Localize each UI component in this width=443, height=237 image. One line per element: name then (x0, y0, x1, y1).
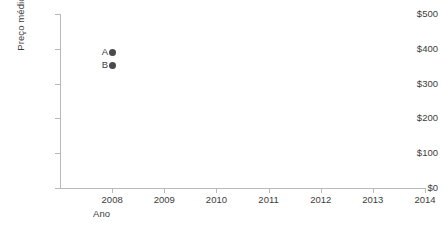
x-tick-mark (321, 188, 322, 193)
x-tick-label: 2010 (194, 194, 238, 205)
y-tick-mark (55, 49, 60, 50)
x-tick-label: 2009 (142, 194, 186, 205)
x-axis-line (60, 188, 425, 189)
data-point-marker (109, 62, 116, 69)
x-tick-label: 2011 (247, 194, 291, 205)
x-tick-mark (269, 188, 270, 193)
y-tick-mark (55, 14, 60, 15)
x-tick-mark (373, 188, 374, 193)
x-tick-mark (164, 188, 165, 193)
y-axis-line (60, 14, 61, 189)
y-tick-label: $0 (386, 182, 438, 193)
y-tick-label: $400 (386, 43, 438, 54)
y-tick-label: $300 (386, 78, 438, 89)
x-tick-mark (216, 188, 217, 193)
x-tick-label: 2014 (403, 194, 443, 205)
y-tick-mark (55, 118, 60, 119)
data-point-marker (109, 49, 116, 56)
x-tick-mark (425, 188, 426, 193)
y-tick-label: $500 (386, 8, 438, 19)
y-tick-mark (55, 188, 60, 189)
y-axis-title: Preço médio (15, 0, 26, 72)
y-tick-mark (55, 153, 60, 154)
x-tick-mark (112, 188, 113, 193)
y-tick-mark (55, 84, 60, 85)
x-axis-title: Ano (93, 208, 110, 219)
x-tick-label: 2013 (351, 194, 395, 205)
y-tick-label: $200 (386, 112, 438, 123)
x-tick-label: 2008 (90, 194, 134, 205)
data-point-label: A (86, 46, 108, 57)
x-tick-label: 2012 (299, 194, 343, 205)
data-point-label: B (86, 59, 108, 70)
y-tick-label: $100 (386, 147, 438, 158)
